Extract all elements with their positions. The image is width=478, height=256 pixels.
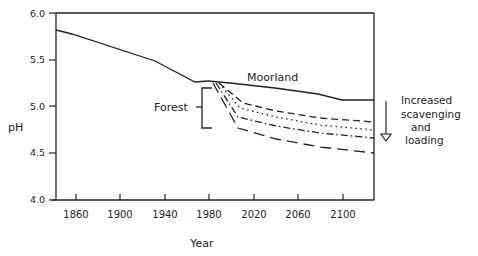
- y-axis-labels: 6.0 5.5 5.0 4.5 4.0: [30, 8, 45, 205]
- x-tick-label: 2100: [330, 209, 355, 220]
- forest-scenario-2: [219, 83, 374, 130]
- y-tick-label: 5.5: [30, 54, 45, 65]
- note-line: loading: [405, 134, 444, 146]
- x-axis-ticks: [76, 194, 343, 200]
- y-tick-label: 6.0: [30, 8, 45, 19]
- down-arrow-icon: [381, 101, 391, 141]
- y-axis-title: pH: [8, 121, 23, 134]
- x-tick-label: 1900: [107, 209, 132, 220]
- y-tick-label: 5.0: [30, 101, 45, 112]
- scavenging-note: Increased scavenging and loading: [401, 94, 461, 146]
- series-lines: [56, 30, 374, 153]
- moorland-label: Moorland: [247, 71, 298, 84]
- x-axis-labels: 1860 1900 1940 1980 2020 2060 2100: [63, 209, 355, 220]
- note-line: Increased: [401, 94, 452, 106]
- y-axis-ticks: [49, 13, 56, 200]
- note-line: scavenging: [401, 108, 461, 120]
- historical-line: [56, 30, 208, 82]
- y-tick-label: 4.0: [30, 194, 45, 205]
- x-tick-label: 2060: [285, 209, 310, 220]
- forest-label: Forest: [154, 101, 188, 114]
- x-tick-label: 1980: [196, 209, 221, 220]
- x-axis-title: Year: [189, 237, 214, 250]
- x-tick-label: 2020: [241, 209, 266, 220]
- forest-scenario-1: [219, 83, 374, 122]
- forest-bracket: [196, 88, 212, 128]
- note-line: and: [411, 121, 431, 133]
- ph-chart: 6.0 5.5 5.0 4.5 4.0 pH 1860 1900 1940 19…: [0, 0, 478, 256]
- y-tick-label: 4.5: [30, 147, 45, 158]
- plot-frame: [52, 13, 374, 200]
- forest-scenario-4: [213, 83, 374, 153]
- x-tick-label: 1940: [152, 209, 177, 220]
- x-tick-label: 1860: [63, 209, 88, 220]
